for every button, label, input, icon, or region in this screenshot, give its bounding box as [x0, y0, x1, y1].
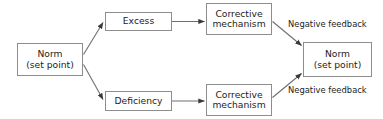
node-corrective-mechanism-top: Corrective mechanism	[206, 3, 272, 35]
edge-label-negative-feedback-bottom: Negative feedback	[288, 85, 367, 95]
node-corrective-mechanism-bottom: Corrective mechanism	[206, 84, 272, 116]
diagram-canvas: Norm (set point) Excess Deficiency Corre…	[0, 0, 383, 119]
node-norm-left-line1: Norm	[37, 49, 62, 59]
node-corrective-bottom-line2: mechanism	[212, 100, 265, 110]
node-deficiency-label: Deficiency	[114, 96, 162, 106]
node-norm-right-line1: Norm	[325, 49, 350, 59]
edge-label-negative-feedback-top: Negative feedback	[288, 19, 367, 29]
node-corrective-top-line2: mechanism	[212, 19, 265, 29]
node-norm-left: Norm (set point)	[17, 43, 83, 76]
node-excess-label: Excess	[123, 16, 154, 26]
connector-norm-left-to-deficiency	[84, 65, 104, 100]
node-excess: Excess	[105, 12, 172, 31]
connector-norm-left-to-excess	[84, 23, 104, 55]
node-norm-right: Norm (set point)	[303, 42, 372, 77]
node-norm-right-line2: (set point)	[314, 60, 362, 70]
node-deficiency: Deficiency	[105, 91, 172, 111]
node-norm-left-line2: (set point)	[26, 60, 74, 70]
